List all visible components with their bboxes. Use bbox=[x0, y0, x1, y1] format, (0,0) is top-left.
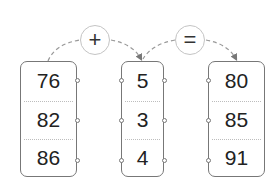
column-addend-a: 76 82 86 bbox=[20, 61, 77, 177]
port-dot bbox=[119, 158, 124, 163]
arrow-equals-to-b bbox=[143, 40, 175, 59]
port-dot bbox=[75, 158, 80, 163]
cell-value: 4 bbox=[122, 139, 163, 178]
column-sum: 80 85 91 bbox=[208, 61, 265, 177]
port-dot bbox=[162, 118, 167, 123]
cell-value: 80 bbox=[209, 62, 264, 101]
port-dot bbox=[206, 158, 211, 163]
port-dot bbox=[119, 78, 124, 83]
cell-value: 3 bbox=[122, 101, 163, 140]
cell-value: 91 bbox=[209, 139, 264, 178]
cell-value: 76 bbox=[21, 62, 76, 101]
cell-value: 5 bbox=[122, 62, 163, 101]
cell-value: 86 bbox=[21, 139, 76, 178]
port-dot bbox=[206, 118, 211, 123]
port-dot bbox=[119, 118, 124, 123]
port-dot bbox=[75, 118, 80, 123]
arrow-plus-to-b bbox=[111, 40, 141, 59]
cell-value: 82 bbox=[21, 101, 76, 140]
equals-operator: = bbox=[175, 25, 205, 55]
port-dot bbox=[162, 158, 167, 163]
port-dot bbox=[162, 78, 167, 83]
cell-value: 85 bbox=[209, 101, 264, 140]
port-dot bbox=[75, 78, 80, 83]
port-dot bbox=[206, 78, 211, 83]
arrow-a-to-plus bbox=[48, 40, 80, 61]
plus-operator: + bbox=[80, 25, 110, 55]
arrow-equals-to-sum bbox=[206, 40, 236, 59]
column-addend-b: 5 3 4 bbox=[121, 61, 164, 177]
